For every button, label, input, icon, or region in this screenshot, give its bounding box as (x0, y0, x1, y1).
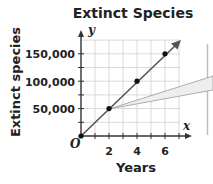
y-axis-variable: y (87, 23, 96, 37)
x-axis-title: Years (115, 160, 156, 175)
origin-label: O (70, 137, 81, 151)
data-point (134, 79, 139, 84)
chart-title: Extinct Species (73, 5, 193, 21)
y-axis-title: Extinct species (8, 27, 23, 137)
y-tick-label: 100,000 (25, 76, 75, 89)
extinct-species-chart: Extinct Species y x O 150,000 100,000 50… (0, 0, 213, 184)
x-tick-label: 4 (133, 145, 141, 158)
data-point (162, 51, 167, 56)
y-tick-label: 50,000 (33, 103, 76, 116)
y-tick-label: 150,000 (25, 48, 75, 61)
x-tick-label: 6 (161, 145, 169, 158)
data-point (106, 106, 111, 111)
x-axis-variable: x (182, 119, 191, 133)
x-tick-label: 2 (105, 145, 113, 158)
